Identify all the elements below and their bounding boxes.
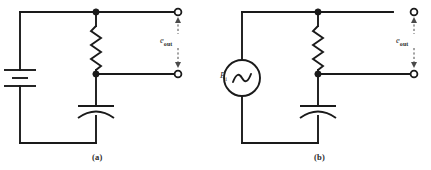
junction-dot-a-mid [93,71,99,77]
resistor-symbol-a [91,26,101,70]
circuit-b-group [224,9,417,143]
circuit-diagram-canvas [0,0,431,170]
output-terminal-a-bottom[interactable] [175,71,182,78]
junction-dot-b-mid [315,71,321,77]
eout-arrow-up-b [411,17,417,23]
source-voltage-subscript-b: i [225,76,227,82]
output-terminal-a-top[interactable] [175,9,182,16]
ac-source-symbol-b [224,60,260,96]
resistor-symbol-b [313,26,323,70]
caption-b: (b) [314,152,325,162]
eout-arrow-down-b [411,62,417,68]
eout-arrow-up-a [175,17,181,23]
output-terminal-b-bottom[interactable] [411,71,418,78]
output-voltage-label-b: eout [396,35,408,47]
output-voltage-label-a: eout [160,35,172,47]
battery-symbol-a [4,70,36,86]
output-voltage-subscript-a: out [164,41,173,47]
figure-root: eout eout Ei (a) (b) [0,0,431,170]
circuit-a-group [4,9,181,143]
output-voltage-subscript-b: out [400,41,409,47]
output-terminal-b-top[interactable] [411,9,418,16]
eout-arrow-down-a [175,62,181,68]
junction-dot-a-top [93,9,99,15]
caption-a: (a) [92,152,103,162]
junction-dot-b-top [315,9,321,15]
source-voltage-label-b: Ei [220,70,227,82]
